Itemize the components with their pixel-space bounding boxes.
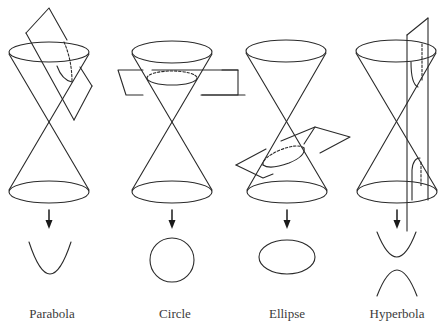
cone-generator-line	[247, 53, 326, 190]
plane-edge	[26, 8, 67, 40]
circle-shape	[150, 238, 194, 282]
double-cone	[356, 40, 437, 203]
cone-top-rim	[246, 40, 326, 62]
cone-top-rim	[132, 41, 212, 63]
parabola-panel	[9, 8, 92, 274]
double-cone	[132, 41, 212, 203]
down-arrow-icon	[394, 210, 401, 229]
cutting-plane	[118, 70, 245, 95]
conic-sections-figure: Parabola Circle Ellipse Hyperbola	[0, 0, 444, 327]
cone-bottom-rim	[132, 181, 212, 203]
conic-sections-svg	[0, 0, 444, 327]
cutting-plane	[236, 127, 350, 178]
label-ellipse: Ellipse	[269, 306, 305, 322]
circle-section-hidden	[147, 71, 197, 78]
cone-top-rim	[9, 42, 89, 62]
hyperbola-lower-branch	[377, 270, 417, 296]
plane-edge	[80, 67, 92, 86]
cutting-plane	[407, 18, 428, 231]
ellipse-shape	[259, 240, 315, 274]
down-arrow-icon	[169, 210, 176, 229]
parabola-section-hidden	[64, 42, 72, 82]
cone-bottom-rim	[357, 181, 437, 203]
parabola-section-curve	[57, 66, 72, 82]
circle-section-front	[147, 78, 197, 85]
cone-top-rim	[356, 40, 436, 62]
hyperbola-upper-section	[411, 62, 418, 87]
down-arrow-icon	[284, 210, 291, 229]
hyperbola-panel	[356, 18, 437, 296]
circle-panel	[118, 41, 245, 282]
hyperbola-lower-section	[412, 158, 420, 200]
plane-edge	[236, 149, 266, 165]
cone-bottom-rim	[9, 181, 89, 203]
plane-edge	[202, 70, 238, 95]
plane-edge	[74, 86, 92, 120]
cone-generator-line	[357, 53, 436, 190]
parabola-curve	[29, 242, 71, 274]
plane-edge	[407, 18, 428, 35]
cone-bottom-rim	[247, 181, 327, 203]
down-arrow-icon	[46, 210, 53, 229]
double-cone	[9, 42, 89, 203]
double-cone	[246, 40, 327, 203]
plane-edge	[304, 127, 350, 153]
cutting-plane	[26, 8, 92, 120]
label-parabola: Parabola	[29, 306, 74, 322]
hyperbola-upper-branch	[377, 232, 416, 257]
label-hyperbola: Hyperbola	[370, 306, 425, 322]
plane-edge	[26, 33, 74, 120]
label-circle: Circle	[159, 306, 191, 322]
ellipse-panel	[236, 40, 350, 274]
plane-edge	[118, 70, 143, 95]
ellipse-section-hidden	[263, 146, 304, 165]
